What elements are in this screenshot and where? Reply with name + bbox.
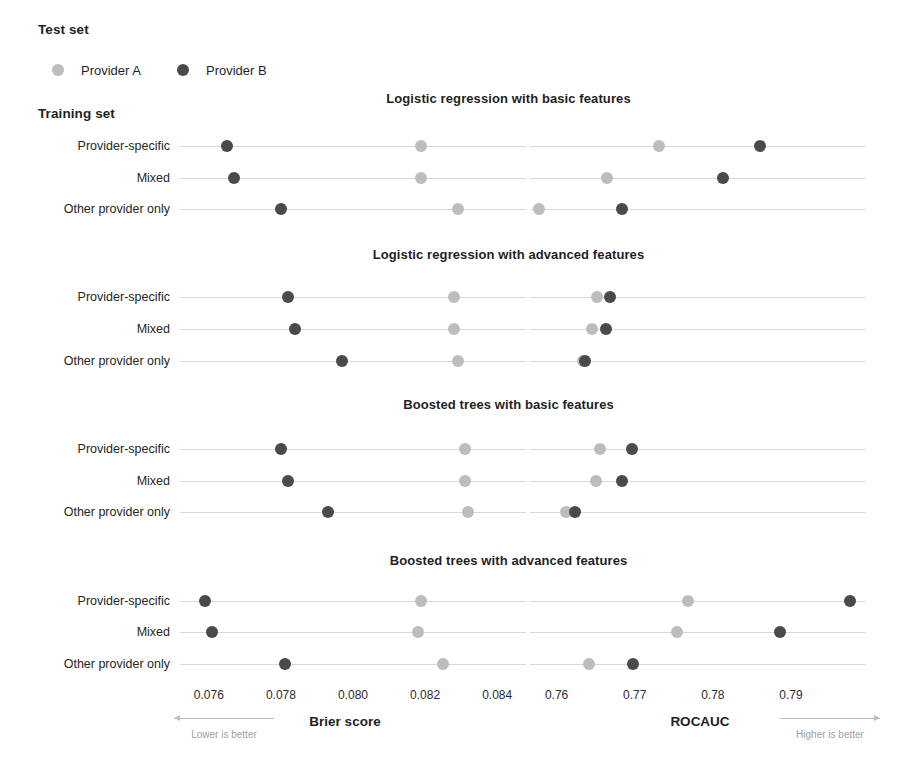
row-label-mixed: Mixed [10, 322, 170, 336]
legend-swatch-provider_b [177, 64, 189, 76]
axis-name-rocauc: ROCAUC [670, 714, 729, 729]
data-point-brier-provider-a[interactable] [452, 203, 464, 215]
gridline-left [180, 481, 526, 482]
legend-label-provider_b: Provider B [206, 63, 267, 78]
data-point-rocauc-provider-b[interactable] [774, 626, 786, 638]
gridline-right [530, 664, 866, 665]
gridline-left [180, 361, 526, 362]
data-point-brier-provider-b[interactable] [279, 658, 291, 670]
row-label-provider-specific: Provider-specific [10, 139, 170, 153]
row-label-provider-specific: Provider-specific [10, 594, 170, 608]
gridline-right [530, 329, 866, 330]
data-point-brier-provider-a[interactable] [437, 658, 449, 670]
data-point-brier-provider-b[interactable] [275, 203, 287, 215]
data-point-rocauc-provider-a[interactable] [583, 658, 595, 670]
data-point-brier-provider-b[interactable] [206, 626, 218, 638]
panel-title: Logistic regression with advanced featur… [0, 247, 909, 262]
legend-swatch-provider_a [52, 64, 64, 76]
axis-tick-rocauc-3: 0.79 [779, 688, 802, 702]
data-point-rocauc-provider-a[interactable] [594, 443, 606, 455]
data-point-rocauc-provider-b[interactable] [717, 172, 729, 184]
data-point-brier-provider-a[interactable] [415, 172, 427, 184]
axis-tick-brier-1: 0.078 [266, 688, 296, 702]
panel-title-text: Logistic regression with advanced featur… [373, 247, 645, 262]
gridline-right [530, 481, 866, 482]
data-point-brier-provider-b[interactable] [221, 140, 233, 152]
axis-tick-brier-2: 0.080 [338, 688, 368, 702]
axis-tick-brier-3: 0.082 [410, 688, 440, 702]
data-point-rocauc-provider-a[interactable] [653, 140, 665, 152]
row-label-mixed: Mixed [10, 625, 170, 639]
data-point-rocauc-provider-b[interactable] [626, 443, 638, 455]
axis-direction-arrow-rocauc-icon [780, 714, 880, 724]
gridline-left [180, 329, 526, 330]
gridline-right [530, 632, 866, 633]
legend-title: Test set [38, 22, 89, 37]
data-point-brier-provider-a[interactable] [412, 626, 424, 638]
data-point-brier-provider-b[interactable] [282, 475, 294, 487]
gridline-left [180, 297, 526, 298]
axis-tick-rocauc-0: 0.76 [545, 688, 568, 702]
data-point-brier-provider-b[interactable] [275, 443, 287, 455]
data-point-brier-provider-a[interactable] [448, 323, 460, 335]
gridline-right [530, 146, 866, 147]
data-point-rocauc-provider-a[interactable] [601, 172, 613, 184]
data-point-rocauc-provider-b[interactable] [600, 323, 612, 335]
gridline-right [530, 297, 866, 298]
data-point-rocauc-provider-b[interactable] [604, 291, 616, 303]
axis-direction-arrow-brier-icon [174, 714, 274, 724]
gridline-left [180, 601, 526, 602]
data-point-brier-provider-a[interactable] [459, 475, 471, 487]
gridline-left [180, 209, 526, 210]
axis-tick-rocauc-1: 0.77 [623, 688, 646, 702]
row-label-mixed: Mixed [10, 474, 170, 488]
data-point-brier-provider-a[interactable] [415, 595, 427, 607]
panel-title: Logistic regression with basic features [0, 91, 909, 106]
data-point-brier-provider-b[interactable] [289, 323, 301, 335]
panel-title-text: Boosted trees with advanced features [390, 553, 628, 568]
data-point-brier-provider-b[interactable] [228, 172, 240, 184]
gridline-left [180, 632, 526, 633]
data-point-rocauc-provider-a[interactable] [590, 475, 602, 487]
data-point-rocauc-provider-b[interactable] [627, 658, 639, 670]
panel-title-text: Logistic regression with basic features [386, 91, 630, 106]
data-point-rocauc-provider-b[interactable] [616, 475, 628, 487]
data-point-rocauc-provider-b[interactable] [569, 506, 581, 518]
gridline-left [180, 664, 526, 665]
data-point-brier-provider-b[interactable] [282, 291, 294, 303]
data-point-rocauc-provider-a[interactable] [682, 595, 694, 607]
data-point-brier-provider-b[interactable] [199, 595, 211, 607]
data-point-rocauc-provider-b[interactable] [844, 595, 856, 607]
data-point-brier-provider-a[interactable] [448, 291, 460, 303]
data-point-brier-provider-a[interactable] [459, 443, 471, 455]
data-point-brier-provider-b[interactable] [322, 506, 334, 518]
data-point-rocauc-provider-a[interactable] [671, 626, 683, 638]
data-point-brier-provider-b[interactable] [336, 355, 348, 367]
data-point-rocauc-provider-b[interactable] [616, 203, 628, 215]
legend-label-provider_a: Provider A [81, 63, 141, 78]
data-point-rocauc-provider-b[interactable] [754, 140, 766, 152]
axis-hint-brier: Lower is better [191, 729, 257, 740]
data-point-brier-provider-a[interactable] [462, 506, 474, 518]
gridline-right [530, 601, 866, 602]
row-label-other-provider-only: Other provider only [10, 657, 170, 671]
axis-tick-rocauc-2: 0.78 [701, 688, 724, 702]
row-label-other-provider-only: Other provider only [10, 202, 170, 216]
gridline-right [530, 209, 866, 210]
axis-tick-brier-4: 0.084 [482, 688, 512, 702]
row-label-mixed: Mixed [10, 171, 170, 185]
axis-hint-rocauc: Higher is better [796, 729, 864, 740]
data-point-brier-provider-a[interactable] [452, 355, 464, 367]
data-point-rocauc-provider-b[interactable] [579, 355, 591, 367]
data-point-rocauc-provider-a[interactable] [533, 203, 545, 215]
row-label-other-provider-only: Other provider only [10, 354, 170, 368]
axis-tick-brier-0: 0.076 [194, 688, 224, 702]
data-point-brier-provider-a[interactable] [415, 140, 427, 152]
gridline-left [180, 449, 526, 450]
panel-title: Boosted trees with basic features [0, 397, 909, 412]
legend-entry-provider_b[interactable]: Provider B [177, 63, 267, 78]
legend-entry-provider_a[interactable]: Provider A [52, 63, 141, 78]
gridline-right [530, 449, 866, 450]
data-point-rocauc-provider-a[interactable] [591, 291, 603, 303]
data-point-rocauc-provider-a[interactable] [586, 323, 598, 335]
